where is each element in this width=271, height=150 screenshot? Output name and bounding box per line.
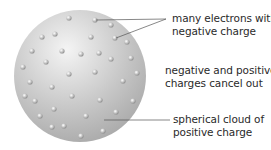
electron-dot (128, 55, 133, 60)
electron-dot (108, 56, 113, 61)
electron-dot (37, 113, 42, 118)
electron-dot (78, 51, 83, 56)
electron-dot (130, 98, 135, 103)
cancel-label-line2: charges cancel out (165, 77, 271, 90)
electron-dot (124, 39, 129, 44)
electron-dot (120, 78, 125, 83)
electrons-label: many electrons with negative charge (172, 12, 271, 37)
electron-dot (66, 15, 71, 20)
electron-dot (51, 106, 56, 111)
positive-charge-sphere (14, 10, 146, 142)
electron-dot (88, 34, 93, 39)
cloud-label: spherical cloud of positive charge (173, 113, 264, 138)
cloud-label-line1: spherical cloud of (173, 113, 264, 126)
electron-dot (52, 31, 57, 36)
electron-dot (108, 22, 113, 27)
electron-dot (83, 113, 88, 118)
electrons-label-line1: many electrons with (172, 12, 271, 25)
electron-dot (27, 79, 32, 84)
electron-dot (22, 93, 27, 98)
electron-dot (59, 48, 64, 53)
electron-dot (32, 98, 37, 103)
electron-dot (39, 34, 44, 39)
electron-dot (49, 124, 54, 129)
electron-dot (97, 97, 102, 102)
electron-dot (29, 48, 34, 53)
electron-dot (78, 133, 83, 138)
electron-dot (43, 59, 48, 64)
electron-dot (20, 64, 25, 69)
electron-dot (61, 123, 66, 128)
electron-dot (69, 93, 74, 98)
cancel-label: negative and positive charges cancel out (165, 64, 271, 89)
electron-dot (96, 50, 101, 55)
cancel-label-line1: negative and positive (165, 64, 271, 77)
electron-dot (92, 69, 97, 74)
electron-dot (66, 71, 71, 76)
cloud-label-line2: positive charge (173, 126, 264, 139)
electron-dot (100, 128, 105, 133)
electrons-label-line2: negative charge (172, 25, 271, 38)
electron-dot (113, 109, 118, 114)
electron-dot (134, 70, 139, 75)
electron-dot (49, 84, 54, 89)
